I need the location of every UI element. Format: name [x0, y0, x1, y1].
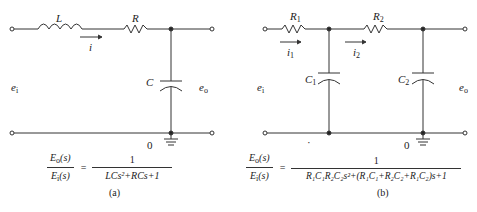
- output-ground-terminal-icon: [463, 131, 467, 135]
- equals-sign: =: [81, 162, 87, 173]
- current-label: i: [89, 42, 92, 53]
- input-ground-terminal-icon: [263, 131, 267, 135]
- tf-denominator: Ei(s): [246, 167, 273, 183]
- caption-a: (a): [109, 187, 120, 198]
- stray-dot: ·: [307, 137, 311, 148]
- ground-label: 0: [404, 140, 410, 151]
- circuit-a: [10, 24, 214, 145]
- transfer-function-b: Eo(s) Ei(s) = 1 R₁C₁R₂C₂s²+(R₁C₁+R₂C₂+R₁…: [245, 152, 461, 183]
- output-voltage-label: eo: [459, 82, 468, 95]
- rhs-numerator: 1: [126, 154, 139, 167]
- circuit-b: [263, 25, 467, 145]
- input-ground-terminal-icon: [10, 131, 14, 135]
- current-i2-label: i2: [353, 47, 360, 60]
- tf-denominator: Ei(s): [47, 167, 74, 183]
- ground-label: 0: [147, 140, 153, 151]
- junction-dot: [327, 131, 331, 135]
- caption-b: (b): [377, 187, 389, 198]
- capacitor-c1-label: C1: [305, 74, 316, 87]
- resistor-r1-icon: [282, 25, 305, 33]
- rhs-denominator: R₁C₁R₂C₂s²+(R₁C₁+R₂C₂+R₁C₂)s+1: [291, 168, 461, 181]
- output-terminal-icon: [210, 27, 214, 31]
- resistor-r2-icon: [364, 25, 387, 33]
- inductor-label: L: [56, 13, 62, 24]
- inductor-icon: [38, 24, 82, 29]
- equals-sign: =: [280, 162, 286, 173]
- ground-icon: [416, 139, 430, 145]
- output-ground-terminal-icon: [210, 131, 214, 135]
- transfer-function-a: Eo(s) Ei(s) = 1 LCs²+RCs+1: [46, 152, 172, 183]
- resistor-r1-label: R1: [290, 11, 301, 24]
- input-voltage-label: ei: [257, 82, 264, 95]
- resistor-r2-label: R2: [373, 11, 384, 24]
- rhs-numerator: 1: [370, 155, 383, 168]
- input-terminal-icon: [263, 27, 267, 31]
- capacitor-c2-label: C2: [398, 74, 409, 87]
- tf-numerator: Eo(s): [245, 152, 274, 167]
- input-voltage-label: ei: [11, 82, 18, 95]
- input-terminal-icon: [10, 27, 14, 31]
- tf-numerator: Eo(s): [46, 152, 75, 167]
- ground-icon: [164, 139, 178, 145]
- resistor-label: R: [132, 13, 139, 24]
- capacitor-label: C: [146, 77, 153, 88]
- rhs-denominator: LCs²+RCs+1: [92, 167, 172, 181]
- resistor-icon: [124, 25, 147, 33]
- output-terminal-icon: [463, 27, 467, 31]
- output-voltage-label: eo: [199, 82, 208, 95]
- current-i1-label: i1: [287, 47, 294, 60]
